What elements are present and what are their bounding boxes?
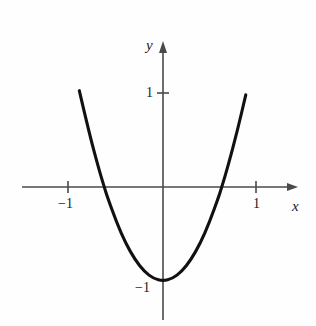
plot-canvas — [0, 0, 316, 326]
x-tick-label-negative-one: −1 — [58, 197, 73, 211]
y-tick-label-one: 1 — [146, 86, 153, 100]
y-tick-label-negative-one: −1 — [135, 281, 150, 295]
y-axis-arrowhead — [159, 41, 167, 53]
x-axis-label: x — [292, 199, 299, 214]
x-axis-arrowhead — [287, 183, 298, 191]
y-axis-label: y — [146, 38, 153, 53]
x-tick-label-one: 1 — [253, 197, 260, 211]
graph-figure: y x −1 1 1 −1 — [0, 0, 316, 326]
